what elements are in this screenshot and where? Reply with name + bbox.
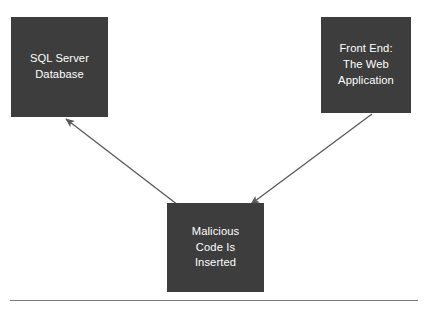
node-sql-server-database[interactable]: SQL Server Database: [11, 17, 108, 117]
node-label-line: The Web: [343, 57, 389, 73]
node-label-line: SQL Server: [30, 51, 89, 67]
node-label-line: Inserted: [195, 255, 236, 271]
connector-malicious-to-database: [66, 119, 178, 205]
node-label-line: Front End:: [339, 41, 392, 57]
node-front-end-web-application[interactable]: Front End: The Web Application: [321, 17, 411, 113]
connector-front-end-to-malicious: [251, 114, 372, 204]
node-label-line: Application: [338, 73, 394, 89]
node-label-line: Code Is: [196, 240, 235, 256]
node-malicious-code-is-inserted[interactable]: Malicious Code Is Inserted: [167, 203, 264, 292]
node-label-line: Database: [35, 67, 84, 83]
horizontal-divider: [10, 300, 418, 301]
node-label-line: Malicious: [192, 224, 240, 240]
diagram-canvas: SQL Server Database Front End: The Web A…: [0, 0, 429, 310]
